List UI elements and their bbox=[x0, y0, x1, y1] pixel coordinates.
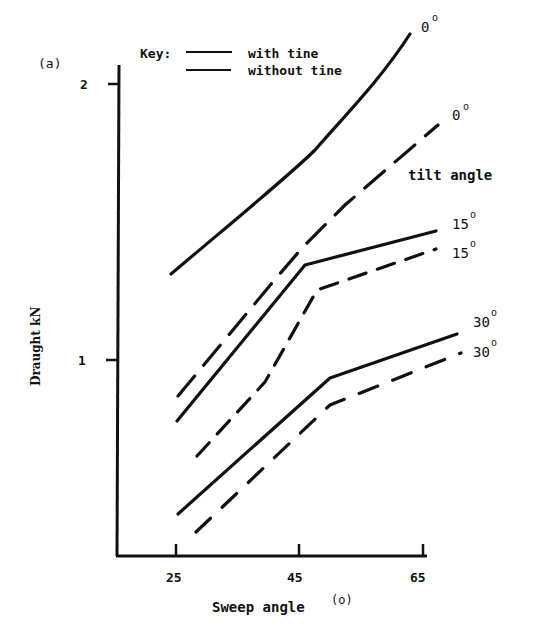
legend-label-without-tine: without tine bbox=[248, 63, 342, 78]
chart-canvas: (a) Key: with tine without tine 2 1 25 4… bbox=[0, 0, 533, 626]
y-axis-line bbox=[117, 65, 119, 556]
x-tick-label-65: 65 bbox=[410, 570, 426, 585]
series-15deg-with-tine bbox=[177, 231, 436, 421]
end-label-15deg-without: 15 bbox=[452, 245, 469, 261]
x-axis-unit: (o) bbox=[331, 593, 353, 607]
end-label-30deg-with: 30 bbox=[473, 314, 490, 330]
degree-mark: o bbox=[470, 209, 476, 220]
series-30deg-with-tine bbox=[178, 334, 457, 514]
x-axis-title: Sweep angle bbox=[212, 599, 305, 615]
end-label-15deg-with: 15 bbox=[452, 216, 469, 232]
degree-mark: o bbox=[432, 12, 438, 23]
y-tick-label-2: 2 bbox=[80, 77, 88, 92]
legend-title: Key: bbox=[140, 46, 171, 61]
x-tick-label-25: 25 bbox=[166, 570, 182, 585]
legend: Key: with tine without tine bbox=[140, 46, 342, 78]
degree-mark: o bbox=[491, 337, 497, 348]
end-label-30deg-without: 30 bbox=[473, 344, 490, 360]
panel-label: (a) bbox=[38, 56, 61, 71]
x-tick-label-45: 45 bbox=[287, 570, 303, 585]
end-label-0deg-without: 0 bbox=[452, 107, 460, 123]
end-label-0deg-with: 0 bbox=[421, 19, 429, 35]
degree-mark: o bbox=[491, 307, 497, 318]
degree-mark: o bbox=[470, 238, 476, 249]
axes: 2 1 25 45 65 bbox=[78, 65, 427, 585]
y-tick-label-1: 1 bbox=[78, 353, 86, 368]
legend-label-with-tine: with tine bbox=[248, 46, 319, 61]
degree-mark: o bbox=[463, 101, 469, 112]
annotation-tilt-angle: tilt angle bbox=[408, 167, 492, 183]
series-end-labels: 0 o 0 o tilt angle 15 o 15 o 30 o 30 o bbox=[408, 12, 497, 360]
y-axis-title: Draught kN bbox=[29, 307, 43, 386]
